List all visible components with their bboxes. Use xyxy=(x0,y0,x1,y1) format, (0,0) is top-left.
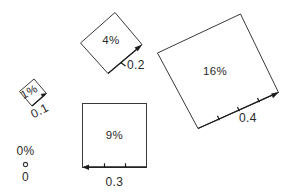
square-outline-zero-percent xyxy=(23,162,27,166)
length-label-nine-percent: 0.3 xyxy=(106,175,124,189)
scale-line-sixteen-percent xyxy=(198,93,277,128)
tick-four-percent-1 xyxy=(121,63,126,66)
figure-canvas: 1% 0.1 4% 0.2 9% 0.3 16% 0.4 0% 0 xyxy=(0,0,292,196)
area-label-four-percent: 4% xyxy=(102,34,119,46)
arrow-head-sixteen-percent xyxy=(271,92,279,98)
area-label-nine-percent: 9% xyxy=(106,129,123,141)
length-label-zero-percent: 0 xyxy=(22,170,29,184)
length-label-one-percent: 0.1 xyxy=(28,100,50,121)
square-scaling-figure: 1% 0.1 4% 0.2 9% 0.3 16% 0.4 0% 0 xyxy=(0,0,292,196)
square-group-zero-percent xyxy=(23,162,27,166)
arrow-head-nine-percent xyxy=(82,164,89,170)
area-label-zero-percent: 0% xyxy=(16,144,34,158)
length-label-sixteen-percent: 0.4 xyxy=(239,111,257,125)
area-label-sixteen-percent: 16% xyxy=(203,65,227,77)
area-label-one-percent: 1% xyxy=(19,82,40,101)
length-label-four-percent: 0.2 xyxy=(127,58,145,72)
